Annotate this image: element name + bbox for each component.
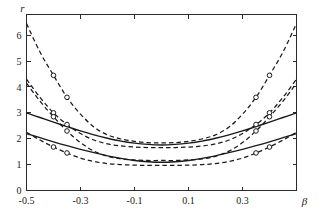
plot-frame [27, 15, 297, 191]
y-axis-label: r [20, 2, 25, 14]
y-tick-label: 3 [17, 107, 22, 118]
series-upper-band-lower-bound [27, 79, 297, 147]
y-tick-label: 1 [17, 159, 22, 170]
x-tick-label: -0.5 [19, 195, 35, 206]
data-point-marker [65, 129, 70, 134]
data-point-marker [51, 73, 56, 78]
x-tick-label: -0.1 [127, 195, 143, 206]
data-point-marker [254, 151, 259, 156]
data-point-marker [254, 122, 259, 127]
x-tick-label: -0.3 [73, 195, 89, 206]
data-point-marker [267, 114, 272, 119]
chart-figure: 0123456-0.5-0.3-0.10.10.3rβ [0, 0, 318, 218]
data-point-marker [254, 95, 259, 100]
series-group [27, 24, 297, 166]
data-point-marker [65, 122, 70, 127]
x-tick-label: 0.1 [182, 195, 195, 206]
y-tick-label: 4 [17, 82, 22, 93]
y-tick-label: 6 [17, 30, 22, 41]
plot-canvas: 0123456-0.5-0.3-0.10.10.3rβ [0, 0, 318, 218]
x-axis-label: β [301, 195, 308, 207]
data-point-marker [267, 73, 272, 78]
data-point-marker [65, 95, 70, 100]
data-point-marker [51, 114, 56, 119]
x-tick-label: 0.3 [236, 195, 249, 206]
data-point-marker [254, 129, 259, 134]
data-point-marker [51, 145, 56, 150]
data-point-marker [65, 151, 70, 156]
data-point-marker [267, 145, 272, 150]
y-tick-label: 5 [17, 56, 22, 67]
y-tick-label: 2 [17, 133, 22, 144]
